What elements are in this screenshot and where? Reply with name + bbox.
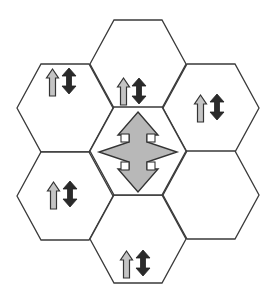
notch-bottom-left [121,162,129,170]
notch-bottom-right [147,162,155,170]
hex-diagram-canvas [0,0,280,289]
hex-diagram [0,0,280,289]
notch-top-right [147,134,155,142]
notch-top-left [121,134,129,142]
